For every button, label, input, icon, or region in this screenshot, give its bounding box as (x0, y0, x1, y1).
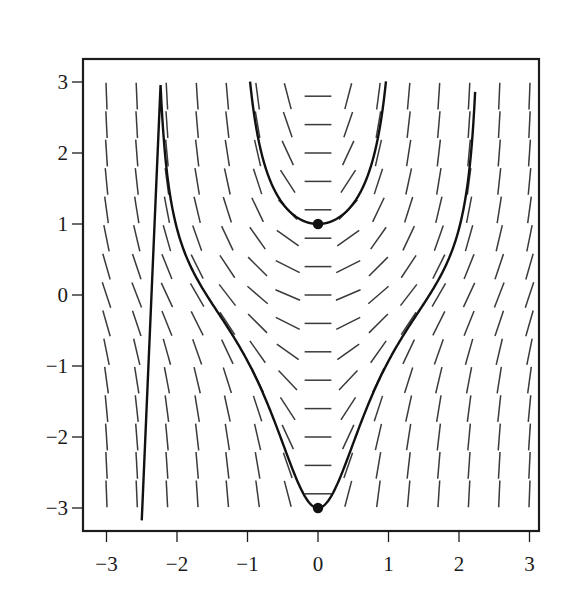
slope-segment (368, 286, 388, 304)
slope-segment (106, 424, 108, 451)
slope-segment (136, 140, 138, 167)
slope-segment (163, 225, 170, 251)
y-tick-label: 0 (58, 283, 69, 307)
slope-segment (105, 395, 107, 422)
x-tick-label: 2 (454, 552, 465, 576)
slope-segment (467, 395, 470, 422)
slope-segment (433, 255, 445, 279)
slope-segment (224, 168, 230, 194)
slope-segment (105, 197, 109, 224)
solution-curve-lower (142, 85, 475, 520)
slope-segment (401, 255, 416, 277)
slope-segment (468, 83, 469, 110)
slope-segment (468, 111, 470, 138)
y-tick-label: 3 (58, 70, 69, 94)
slope-segment (529, 140, 531, 167)
slope-segment (374, 396, 382, 421)
slope-segment (166, 83, 167, 110)
slope-segment (104, 339, 109, 365)
slope-segment (407, 83, 409, 110)
y-tick-label: −3 (46, 496, 68, 520)
slope-segment (494, 283, 504, 308)
slope-segment (104, 225, 109, 251)
slope-segment (283, 112, 292, 137)
slope-segment (498, 168, 501, 195)
slope-segment (105, 168, 107, 195)
slope-segment (166, 480, 167, 507)
slope-segment (371, 227, 386, 249)
initial-point (313, 219, 323, 229)
slope-segment (405, 197, 413, 223)
slope-segment (195, 395, 199, 421)
slope-segment (499, 83, 500, 110)
initial-point (313, 503, 323, 513)
slope-segment (405, 367, 413, 393)
y-tick-label: −2 (46, 425, 68, 449)
slope-segment (196, 452, 198, 479)
slope-segment (219, 284, 235, 305)
slope-segment (434, 226, 443, 251)
slope-segment (528, 367, 532, 394)
slope-segment (376, 452, 381, 478)
slope-segment (401, 312, 416, 334)
x-tick-label: −1 (236, 552, 258, 576)
initial-points (313, 219, 323, 513)
slope-segment (407, 452, 410, 479)
slope-segment (406, 168, 412, 194)
slope-segment (343, 141, 354, 165)
slope-segment (255, 424, 261, 450)
slope-segment (341, 170, 356, 192)
y-tick-label: −1 (46, 354, 68, 378)
slope-segment (255, 452, 260, 478)
slope-segment (106, 140, 108, 167)
solution-curves (142, 81, 475, 520)
slope-segment (467, 197, 472, 223)
slope-segment (496, 339, 502, 365)
slope-segment (253, 396, 261, 421)
slope-segment (165, 395, 168, 422)
slope-segment (498, 395, 501, 422)
slope-segment (194, 197, 200, 223)
slope-segment (105, 367, 109, 394)
slope-segment (162, 311, 172, 336)
x-tick-label: 1 (383, 552, 394, 576)
slope-segment (223, 367, 231, 393)
slope-segment (250, 341, 265, 363)
slope-segment (166, 424, 168, 451)
slope-segment (529, 111, 530, 138)
slope-segment (196, 111, 198, 138)
slope-segment (136, 452, 138, 479)
slope-segment (528, 168, 530, 195)
slope-segment (106, 480, 107, 507)
slope-segment (248, 257, 267, 276)
slope-segment (468, 480, 469, 507)
slope-segment (191, 311, 203, 335)
slope-segment (344, 112, 353, 137)
slope-segment (277, 344, 299, 359)
y-tick-label: 2 (58, 141, 69, 165)
slope-segment (498, 111, 500, 138)
slope-segment (468, 452, 470, 479)
slope-segment (280, 397, 295, 419)
slope-segment (529, 452, 530, 479)
slope-segment (133, 254, 141, 279)
slope-segment (196, 424, 199, 451)
slope-segment (436, 197, 442, 223)
slope-segment (495, 254, 503, 279)
slope-segment (163, 339, 170, 365)
slope-segment (280, 170, 295, 192)
slope-segment (407, 111, 410, 138)
slope-segment (527, 225, 532, 251)
slope-segment (136, 480, 137, 507)
slope-segment (528, 197, 532, 224)
slope-segment (437, 424, 440, 451)
slope-field-segments (102, 83, 533, 507)
slope-segment (220, 312, 235, 334)
slope-segment (225, 140, 229, 166)
y-tick-label: 1 (58, 212, 69, 236)
slope-segment (193, 339, 202, 364)
slope-segment (135, 168, 138, 195)
slope-segment (248, 314, 267, 333)
slope-segment (433, 311, 445, 335)
slope-segment (195, 168, 199, 194)
